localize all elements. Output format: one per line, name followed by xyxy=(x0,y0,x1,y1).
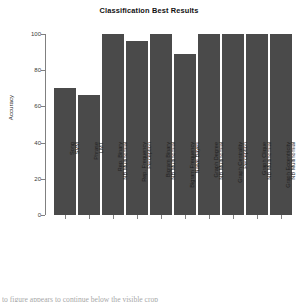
x-tick-mark xyxy=(65,215,66,219)
y-tick-label-wrap: 100 xyxy=(10,31,41,37)
x-tick-mark xyxy=(185,215,186,219)
x-tick-label: SongSVM xyxy=(70,142,79,222)
x-tick-label-line2: Perception xyxy=(243,142,247,222)
y-tick-mark xyxy=(41,179,45,180)
x-tick-label: Graph EccentricityNB Multinomial xyxy=(286,142,295,222)
clipped-caption: to figure appears to continue below the … xyxy=(2,295,296,302)
x-tick-label-line2: Naive Bayes xyxy=(195,142,199,222)
x-tick-label-line1: Phrase xyxy=(94,142,98,222)
x-tick-mark xyxy=(89,215,90,219)
x-tick-label: Bigram BinaryNB Multinomial xyxy=(166,142,175,222)
y-tick-label: 20 xyxy=(17,176,41,182)
x-tick-mark xyxy=(233,215,234,219)
x-tick-label: Rep. BinaryNB Multinomial xyxy=(118,142,127,222)
x-tick-label: Bigram FrequencyNaive Bayes xyxy=(190,142,199,222)
x-tick-label: Rep. FrequencyPerception xyxy=(142,142,151,222)
chart-title: Classification Best Results xyxy=(0,6,298,15)
x-tick-label-line2: NB Multinomial xyxy=(219,142,223,222)
x-tick-label: PhraseLMT xyxy=(94,142,103,222)
y-tick-mark xyxy=(41,106,45,107)
x-tick-mark xyxy=(257,215,258,219)
x-tick-label: Graph CentralityPerception xyxy=(238,142,247,222)
y-tick-mark xyxy=(41,34,45,35)
y-tick-mark xyxy=(41,70,45,71)
x-tick-label: Graph CliqueNB Multinomial xyxy=(262,142,271,222)
x-tick-label: Graph DegreeNB Multinomial xyxy=(214,142,223,222)
y-axis-line xyxy=(45,34,46,215)
x-tick-mark xyxy=(209,215,210,219)
y-tick-label-wrap: 40 xyxy=(10,140,41,146)
x-tick-label-line2: NB Multinomial xyxy=(267,142,271,222)
y-tick-label: 40 xyxy=(17,140,41,146)
x-tick-mark xyxy=(281,215,282,219)
x-tick-mark xyxy=(113,215,114,219)
y-tick-mark xyxy=(41,143,45,144)
y-tick-label-wrap: 80 xyxy=(10,67,41,73)
x-tick-label-line2: NB Multinomial xyxy=(171,142,175,222)
x-tick-mark xyxy=(161,215,162,219)
x-tick-label-line2: SVM xyxy=(75,142,79,222)
y-tick-label-wrap: 20 xyxy=(10,176,41,182)
x-tick-label-line2: NB Multinomial xyxy=(123,142,127,222)
y-tick-label: 60 xyxy=(17,103,41,109)
y-tick-label-wrap: 60 xyxy=(10,103,41,109)
x-tick-mark xyxy=(137,215,138,219)
x-tick-label-line1: Song xyxy=(70,142,74,222)
y-tick-label: 100 xyxy=(17,31,41,37)
x-tick-label-line2: NB Multinomial xyxy=(291,142,295,222)
y-tick-label: 80 xyxy=(17,67,41,73)
x-tick-label-line2: LMT xyxy=(99,142,103,222)
x-tick-label-line2: Perception xyxy=(147,142,151,222)
